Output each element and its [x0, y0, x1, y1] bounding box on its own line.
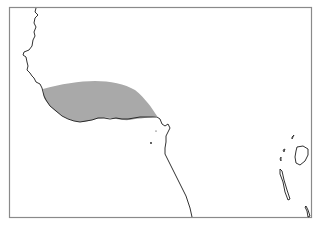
range-map — [0, 0, 319, 229]
island — [155, 130, 156, 131]
island — [150, 142, 152, 144]
map-frame — [10, 8, 312, 218]
